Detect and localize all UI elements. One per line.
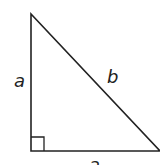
label-bottom-leg: a	[89, 156, 100, 165]
label-left-leg: a	[14, 72, 25, 90]
label-hypotenuse: b	[107, 68, 118, 86]
right-angle-marker	[31, 137, 44, 151]
triangle-outline	[31, 14, 160, 151]
